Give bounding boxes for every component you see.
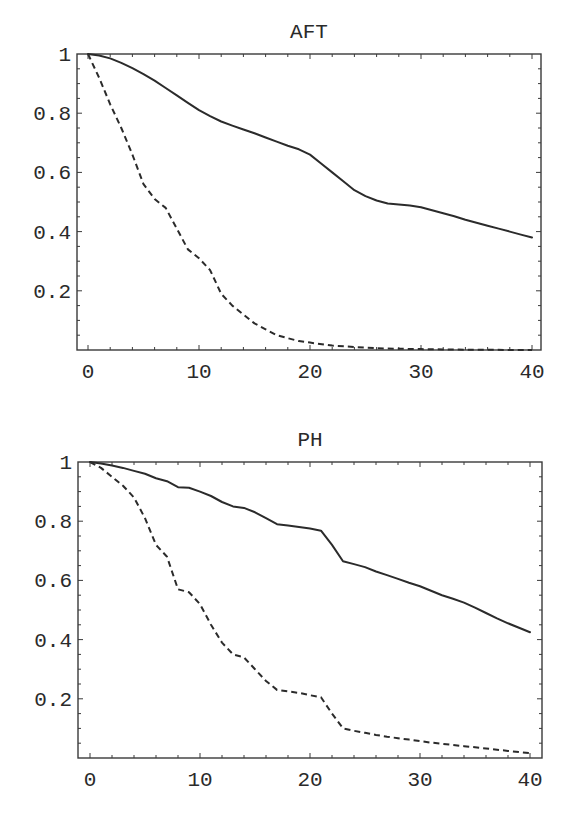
x-tick-label: 40 xyxy=(519,361,544,384)
series-line-dashed xyxy=(90,462,530,753)
y-tick-label: 0.4 xyxy=(33,222,71,245)
series-line-dashed xyxy=(88,54,532,350)
x-tick-label: 0 xyxy=(84,769,97,792)
series-line-solid xyxy=(90,462,530,632)
x-tick-label: 30 xyxy=(407,769,432,792)
y-tick-label: 0.2 xyxy=(34,689,72,712)
figure: AFT0102030400.20.40.60.81 PH0102030400.2… xyxy=(0,0,572,816)
x-tick-label: 30 xyxy=(408,361,433,384)
chart-title: PH xyxy=(297,429,322,452)
plot-frame xyxy=(77,54,541,350)
chart-panel-aft: AFT0102030400.20.40.60.81 xyxy=(33,21,544,384)
x-tick-label: 10 xyxy=(186,361,211,384)
plot-frame xyxy=(78,462,542,758)
chart-panel-ph: PH0102030400.20.40.60.81 xyxy=(34,429,542,792)
series-line-solid xyxy=(88,54,532,238)
x-tick-label: 40 xyxy=(517,769,542,792)
y-tick-label: 0.6 xyxy=(33,162,71,185)
y-tick-label: 1 xyxy=(59,452,72,475)
x-tick-label: 10 xyxy=(187,769,212,792)
y-tick-label: 0.8 xyxy=(33,103,71,126)
x-tick-label: 20 xyxy=(297,361,322,384)
y-tick-label: 0.4 xyxy=(34,630,72,653)
y-tick-label: 0.8 xyxy=(34,511,72,534)
y-tick-label: 0.2 xyxy=(33,281,71,304)
y-tick-label: 1 xyxy=(58,44,71,67)
y-tick-label: 0.6 xyxy=(34,570,72,593)
chart-canvas: AFT0102030400.20.40.60.81 PH0102030400.2… xyxy=(0,0,572,816)
chart-title: AFT xyxy=(290,21,328,44)
x-tick-label: 0 xyxy=(82,361,95,384)
x-tick-label: 20 xyxy=(297,769,322,792)
